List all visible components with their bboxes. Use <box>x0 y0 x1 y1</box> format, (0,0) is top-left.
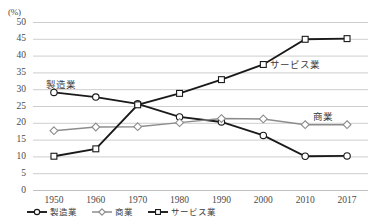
series-diamond <box>50 115 351 135</box>
data-point-marker <box>34 209 39 214</box>
legend-marker-icon <box>91 207 113 217</box>
chart-legend: 製造業商業サービス業 <box>26 205 226 219</box>
data-point-marker <box>259 115 267 123</box>
data-point-marker <box>92 123 100 131</box>
legend-label: 製造業 <box>50 208 77 217</box>
data-point-marker <box>135 102 141 108</box>
legend-item[interactable]: 製造業 <box>26 207 77 217</box>
data-point-marker <box>302 153 308 159</box>
data-point-marker <box>344 153 350 159</box>
series-label: 製造業 <box>46 81 76 91</box>
legend-marker-icon <box>26 207 48 217</box>
series-label: サービス業 <box>270 61 320 71</box>
data-point-marker <box>50 127 58 135</box>
data-point-marker <box>218 77 224 83</box>
legend-label: サービス業 <box>171 208 216 217</box>
legend-item[interactable]: 商業 <box>91 207 133 217</box>
data-point-marker <box>93 146 99 152</box>
series-layer <box>50 36 351 160</box>
line-chart: (%) 05101520253035404550 195019601970198… <box>0 0 381 222</box>
legend-marker-icon <box>147 207 169 217</box>
gridlines <box>33 23 368 191</box>
data-point-marker <box>176 119 184 127</box>
data-point-marker <box>134 123 142 131</box>
data-point-marker <box>99 209 105 215</box>
series-label: 商業 <box>313 113 333 123</box>
data-point-marker <box>93 94 99 100</box>
data-point-marker <box>260 62 266 68</box>
data-point-marker <box>344 36 350 42</box>
data-point-marker <box>302 36 308 42</box>
data-point-marker <box>177 90 183 96</box>
legend-label: 商業 <box>115 208 133 217</box>
data-point-marker <box>343 121 351 129</box>
data-point-marker <box>156 210 161 215</box>
data-point-marker <box>301 121 309 129</box>
data-point-marker <box>51 153 57 159</box>
legend-item[interactable]: サービス業 <box>147 207 216 217</box>
data-point-marker <box>260 132 266 138</box>
plot-area <box>0 0 381 222</box>
